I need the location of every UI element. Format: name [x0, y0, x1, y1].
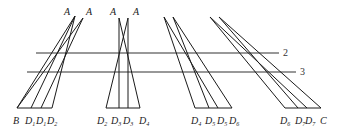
apex-label-a: A [132, 6, 140, 17]
base-label: C [320, 115, 327, 126]
ray-group-4 [210, 17, 321, 108]
ray-group-2 [106, 18, 140, 108]
ray-diagram: 2 3 A A A A B D1 D1 D2 [0, 0, 341, 133]
line-label-3: 3 [300, 66, 305, 77]
apex-label-a: A [63, 6, 71, 17]
base-label: D5 [216, 115, 227, 127]
apex-label-a: A [109, 6, 117, 17]
base-label: D5 [204, 115, 215, 127]
base-label: D1 [24, 115, 35, 127]
base-label: D1 [35, 115, 46, 127]
base-label: D2 [96, 115, 107, 127]
apex-label-a: A [85, 6, 93, 17]
base-label: D4 [190, 115, 201, 127]
base-label: D2 [46, 115, 57, 127]
base-label: D4 [138, 115, 149, 127]
base-label: D6 [228, 115, 239, 127]
base-label: D7 [304, 115, 316, 127]
line-label-2: 2 [283, 47, 288, 58]
base-label: D3 [110, 115, 121, 127]
base-label: D6 [279, 115, 290, 127]
ray-group-1 [17, 16, 83, 108]
base-label: D3 [122, 115, 133, 127]
base-label: B [13, 115, 19, 126]
